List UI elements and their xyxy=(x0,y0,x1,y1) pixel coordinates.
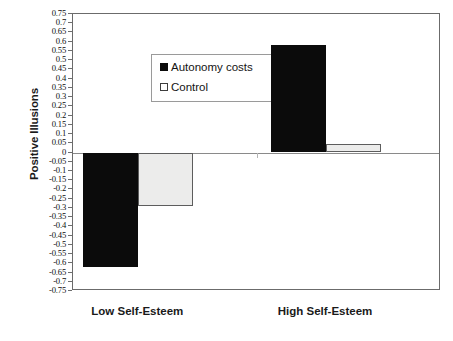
y-axis-tick-mark xyxy=(68,115,72,116)
legend-label-control: Control xyxy=(171,81,208,93)
y-axis-tick-mark xyxy=(68,41,72,42)
y-axis-tick-label: 0.05 xyxy=(30,138,66,147)
y-axis-tick-mark xyxy=(68,96,72,97)
bar-control-low-self-esteem xyxy=(138,153,193,207)
y-axis-tick-mark xyxy=(68,244,72,245)
y-axis-tick-mark xyxy=(68,78,72,79)
y-axis-tick-mark xyxy=(68,253,72,254)
y-axis-tick-mark xyxy=(68,188,72,189)
y-axis-tick-mark xyxy=(68,281,72,282)
y-axis-tick-mark xyxy=(68,198,72,199)
y-axis-tick-mark xyxy=(68,179,72,180)
legend-swatch-filled-square-icon xyxy=(160,63,168,71)
y-axis-tick-mark xyxy=(68,59,72,60)
y-axis-tick-mark xyxy=(68,142,72,143)
y-axis-tick-mark xyxy=(68,170,72,171)
y-axis-tick-mark xyxy=(68,235,72,236)
y-axis-tick-label: -0.75 xyxy=(30,286,66,295)
y-axis-tick-mark xyxy=(68,152,72,153)
y-axis-tick-mark xyxy=(68,133,72,134)
y-axis-tick-mark xyxy=(68,290,72,291)
y-axis-tick-mark xyxy=(68,161,72,162)
y-axis-tick-mark xyxy=(68,50,72,51)
legend-label-autonomy-costs: Autonomy costs xyxy=(171,61,253,73)
bar-autonomy-costs-high-self-esteem xyxy=(271,45,326,152)
y-axis-tick-mark xyxy=(68,216,72,217)
y-axis-tick-mark xyxy=(68,262,72,263)
bar-chart: Positive Illusions 0.750.70.650.60.550.5… xyxy=(0,0,453,341)
category-divider xyxy=(257,153,258,158)
bar-autonomy-costs-low-self-esteem xyxy=(83,153,138,267)
bar-control-high-self-esteem xyxy=(326,144,381,152)
legend-item-control: Control xyxy=(160,81,208,93)
y-axis-tick-mark xyxy=(68,68,72,69)
y-axis-tick-mark xyxy=(68,105,72,106)
y-axis-tick-mark xyxy=(68,272,72,273)
y-axis-tick-labels: 0.750.70.650.60.550.50.450.40.350.30.250… xyxy=(30,13,66,290)
legend-swatch-open-square-icon xyxy=(160,83,168,91)
y-axis-tick-mark xyxy=(68,225,72,226)
y-axis-tick-mark xyxy=(68,31,72,32)
x-axis-label-low-self-esteem: Low Self-Esteem xyxy=(91,305,183,317)
y-axis-tick-mark xyxy=(68,207,72,208)
y-axis-tick-mark xyxy=(68,124,72,125)
y-axis-tick-mark xyxy=(68,22,72,23)
plot-area: Autonomy costs Control xyxy=(72,13,440,290)
legend-item-autonomy-costs: Autonomy costs xyxy=(160,61,253,73)
y-axis-tick-mark xyxy=(68,87,72,88)
y-axis-tick-mark xyxy=(68,13,72,14)
x-axis-label-high-self-esteem: High Self-Esteem xyxy=(278,305,373,317)
